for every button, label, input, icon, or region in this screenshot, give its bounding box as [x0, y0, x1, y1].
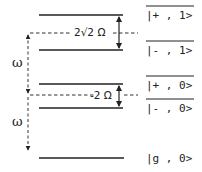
ket-label-plus-0: |+ , 0> — [146, 79, 193, 92]
splitting-label-lower: -2 Ω — [90, 89, 112, 101]
ket-label-plus-1: |+ , 1> — [146, 9, 193, 22]
omega-label-lower: ω — [12, 114, 23, 129]
ket-label-minus-0: |- , 0> — [146, 102, 193, 115]
splitting-label-upper: 2√2 Ω — [74, 26, 105, 38]
ket-label-minus-1: |- , 1> — [146, 44, 193, 57]
ket-label-g-0: |g , 0> — [146, 152, 193, 165]
energy-level-diagram: 2√2 Ω -2 Ω ω ω |+ , 1> |- , 1> |+ , 0> |… — [0, 0, 202, 172]
omega-label-upper: ω — [12, 55, 23, 70]
